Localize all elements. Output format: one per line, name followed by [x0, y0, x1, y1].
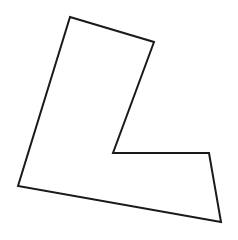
l-shaped-polygon: [18, 17, 221, 222]
diagram-svg: [0, 0, 238, 240]
diagram-canvas: [0, 0, 238, 240]
